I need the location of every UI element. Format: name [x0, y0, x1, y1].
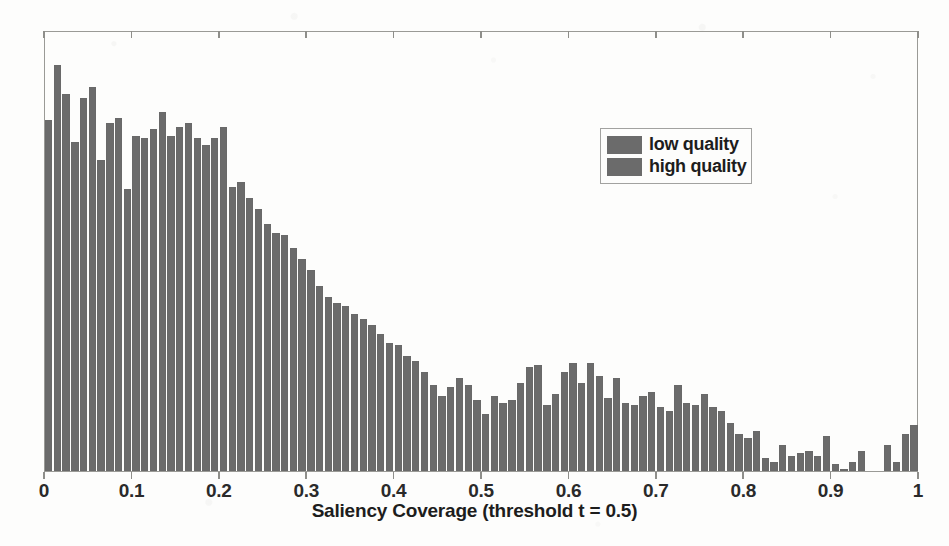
histogram-bar	[552, 394, 559, 471]
histogram-bar	[194, 138, 201, 471]
legend-item-low-quality: low quality	[607, 134, 745, 155]
histogram-bar	[666, 411, 673, 471]
x-axis-tick	[742, 472, 744, 479]
legend-label-high-quality: high quality	[649, 156, 746, 177]
x-axis-tick	[917, 472, 919, 479]
histogram-bar	[735, 434, 742, 471]
histogram-bar	[62, 94, 69, 471]
x-axis-tick-label: 1	[913, 480, 923, 502]
x-axis-tick-label: 0.2	[206, 480, 232, 502]
histogram-bar	[884, 445, 891, 471]
x-axis-label: Saliency Coverage (threshold t = 0.5)	[0, 500, 949, 522]
histogram-bar	[622, 403, 629, 471]
histogram-bar	[491, 396, 498, 471]
x-axis-tick-top	[917, 31, 919, 38]
histogram-bar	[718, 411, 725, 471]
histogram-bar	[80, 98, 87, 471]
x-axis-tick	[43, 472, 45, 479]
x-axis-tick	[393, 472, 395, 479]
histogram-bar	[832, 464, 839, 471]
histogram-bar	[779, 445, 786, 471]
histogram-bar	[71, 142, 78, 471]
histogram-bar	[150, 129, 157, 471]
x-axis-tick-top	[568, 31, 570, 38]
histogram-bar	[526, 367, 533, 471]
histogram-bar	[604, 398, 611, 471]
histogram-bar	[115, 118, 122, 471]
histogram-bar	[797, 453, 804, 471]
x-axis-tick-label: 0	[39, 480, 49, 502]
histogram-bar	[211, 138, 218, 471]
histogram-bar	[788, 456, 795, 471]
x-axis-tick-top	[305, 31, 307, 38]
histogram-bar	[430, 385, 437, 471]
histogram-bar	[229, 187, 236, 471]
histogram-bar	[648, 392, 655, 471]
histogram-bar	[290, 248, 297, 471]
x-axis-tick-label: 0.4	[381, 480, 407, 502]
histogram-bar	[447, 387, 454, 471]
x-axis-tick-top	[742, 31, 744, 38]
x-axis-tick-label: 0.8	[730, 480, 756, 502]
x-axis-tick	[305, 472, 307, 479]
histogram-bar	[368, 325, 375, 471]
x-axis-tick-top	[830, 31, 832, 38]
histogram-bar	[657, 407, 664, 471]
x-axis-tick	[480, 472, 482, 479]
histogram-bars	[45, 32, 917, 471]
histogram-bar	[683, 403, 690, 471]
histogram-bar	[805, 451, 812, 471]
histogram-bar	[727, 423, 734, 472]
histogram-bar	[561, 372, 568, 471]
histogram-bar	[386, 343, 393, 471]
histogram-bar	[902, 434, 909, 471]
histogram-bar	[342, 306, 349, 471]
histogram-bar	[508, 400, 515, 471]
histogram-bar	[534, 365, 541, 471]
histogram-bar	[473, 400, 480, 471]
histogram-bar	[132, 136, 139, 471]
histogram-bar	[237, 182, 244, 471]
histogram-bar	[482, 414, 489, 471]
histogram-bar	[403, 356, 410, 471]
x-axis-tick	[830, 472, 832, 479]
legend-swatch-low-quality	[607, 136, 642, 154]
histogram-bar	[316, 286, 323, 471]
histogram-bar	[281, 235, 288, 471]
histogram-bar	[377, 334, 384, 471]
histogram-bar	[412, 361, 419, 471]
x-axis-tick-top	[131, 31, 133, 38]
histogram-bar	[89, 87, 96, 471]
histogram-bar	[333, 303, 340, 471]
histogram-bar	[465, 385, 472, 471]
histogram-bar	[858, 451, 865, 471]
histogram-bar	[124, 189, 131, 471]
histogram-bar	[692, 405, 699, 471]
histogram-bar	[395, 345, 402, 471]
x-axis-tick-label: 0.6	[556, 480, 582, 502]
x-axis-tick	[218, 472, 220, 479]
histogram-bar	[298, 259, 305, 471]
x-axis-tick-top	[43, 31, 45, 38]
histogram-bar	[613, 378, 620, 471]
histogram-bar	[438, 396, 445, 471]
histogram-bar	[639, 396, 646, 471]
legend-label-low-quality: low quality	[649, 134, 739, 155]
histogram-bar	[631, 405, 638, 471]
histogram-bar	[456, 378, 463, 471]
histogram-bar	[97, 160, 104, 471]
histogram-bar	[517, 383, 524, 471]
histogram-bar	[823, 436, 830, 471]
histogram-bar	[849, 462, 856, 471]
histogram-bar	[255, 209, 262, 471]
legend-swatch-high-quality	[607, 158, 642, 176]
histogram-bar	[176, 127, 183, 471]
histogram-bar	[744, 438, 751, 471]
x-axis-tick-label: 0.1	[119, 480, 145, 502]
legend-item-high-quality: high quality	[607, 156, 745, 177]
histogram-bar	[307, 270, 314, 471]
chart-legend: low quality high quality	[600, 128, 752, 184]
x-axis-tick-top	[655, 31, 657, 38]
histogram-bar	[499, 403, 506, 471]
histogram-bar	[578, 383, 585, 471]
